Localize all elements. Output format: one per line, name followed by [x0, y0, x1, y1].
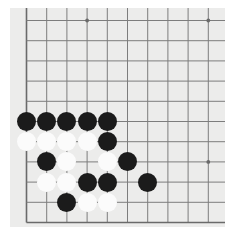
black-stone[interactable] [138, 173, 157, 192]
white-stone[interactable] [78, 132, 97, 151]
go-board-screenshot [0, 0, 233, 235]
black-stone[interactable] [57, 112, 76, 131]
black-stone[interactable] [98, 173, 117, 192]
black-stone[interactable] [78, 112, 97, 131]
white-stone[interactable] [37, 173, 56, 192]
white-stone[interactable] [57, 132, 76, 151]
board-surface[interactable] [10, 8, 225, 227]
stone-layer [10, 8, 225, 227]
black-stone[interactable] [118, 152, 137, 171]
black-stone[interactable] [37, 112, 56, 131]
black-stone[interactable] [37, 152, 56, 171]
white-stone[interactable] [17, 132, 36, 151]
black-stone[interactable] [78, 173, 97, 192]
black-stone[interactable] [98, 132, 117, 151]
white-stone[interactable] [57, 152, 76, 171]
black-stone[interactable] [57, 193, 76, 212]
white-stone[interactable] [57, 173, 76, 192]
black-stone[interactable] [17, 112, 36, 131]
white-stone[interactable] [98, 152, 117, 171]
white-stone[interactable] [78, 193, 97, 212]
white-stone[interactable] [37, 132, 56, 151]
black-stone[interactable] [98, 112, 117, 131]
white-stone[interactable] [98, 193, 117, 212]
